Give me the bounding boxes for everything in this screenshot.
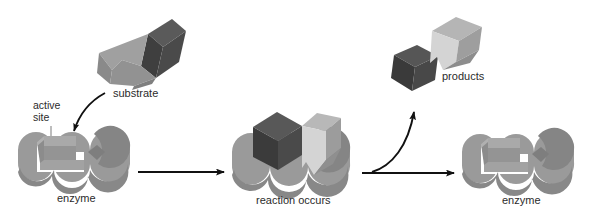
enzyme-left-active-site-back-wall [44,146,76,160]
enzyme-reaction-diagram: substrate active site [0,0,611,217]
enzyme-right-active-site-back-wall [488,148,520,162]
enzyme-left-active-site-floor [40,160,84,170]
active-site-label-line1: active [33,99,61,111]
enzyme-left-active-site-back-rim [44,136,76,146]
enzyme-right-label: enzyme [502,194,541,206]
enzyme-right-active-site-floor [484,162,528,172]
reaction-occurs-label: reaction occurs [256,194,331,206]
active-site-label-line2: site [33,111,50,123]
substrate-label: substrate [113,87,158,99]
diagram-canvas: substrate active site [0,0,611,217]
canvas-background [0,0,611,217]
enzyme-right-active-site-back-rim [488,138,520,148]
enzyme-left-label: enzyme [57,192,96,204]
products-label: products [442,70,485,82]
